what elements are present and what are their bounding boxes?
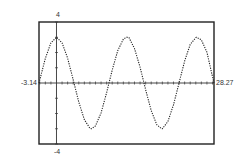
axes bbox=[39, 22, 214, 144]
y-max-label: 4 bbox=[56, 11, 60, 18]
x-min-label: -3.14 bbox=[21, 79, 37, 86]
y-min-label: -4 bbox=[54, 148, 60, 155]
graph-plot bbox=[0, 0, 249, 158]
x-max-label: 28.27 bbox=[216, 79, 234, 86]
